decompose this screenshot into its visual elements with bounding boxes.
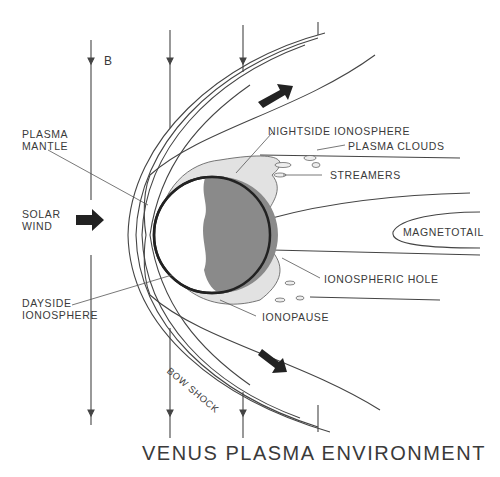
solar-wind-label: SOLAR WIND	[22, 208, 61, 232]
plasma-mantle-line1: PLASMA	[22, 128, 68, 140]
ionopause-label: IONOPAUSE	[262, 311, 329, 323]
b-field-label: B	[104, 55, 113, 67]
nightside-ionosphere-label: NIGHTSIDE IONOSPHERE	[268, 125, 410, 137]
plasma-mantle-label: PLASMA MANTLE	[22, 128, 68, 152]
solar-wind-line2: WIND	[22, 220, 61, 232]
flow-arrow-lower	[258, 349, 287, 373]
streamers-label: STREAMERS	[330, 169, 401, 181]
diagram-title: VENUS PLASMA ENVIRONMENT	[142, 442, 486, 465]
venus-plasma-diagram	[0, 0, 500, 477]
dayside-line2: IONOSPHERE	[22, 309, 98, 321]
dayside-line1: DAYSIDE	[22, 297, 98, 309]
flow-arrow-upper	[258, 84, 293, 108]
ionospheric-hole-label: IONOSPHERIC HOLE	[324, 273, 439, 285]
solar-wind-arrow	[76, 209, 104, 231]
magnetotail-label: MAGNETOTAIL	[403, 226, 484, 238]
solar-wind-line1: SOLAR	[22, 208, 61, 220]
plasma-mantle-line2: MANTLE	[22, 140, 68, 152]
dayside-ionosphere-label: DAYSIDE IONOSPHERE	[22, 297, 98, 321]
plasma-clouds-label: PLASMA CLOUDS	[348, 140, 445, 152]
